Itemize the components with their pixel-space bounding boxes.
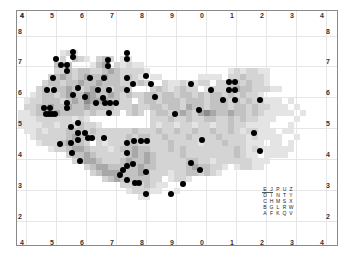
grid-label-bottom: 7 xyxy=(107,239,117,247)
record-dot xyxy=(64,105,70,111)
record-dot xyxy=(50,75,56,81)
record-dot xyxy=(93,100,99,106)
record-dot xyxy=(77,158,83,164)
grid-label-left: 2 xyxy=(15,213,25,221)
record-dot xyxy=(107,100,113,106)
legend-letter: K xyxy=(275,210,281,216)
grid-label-bottom: 0 xyxy=(197,239,207,247)
shaded-square xyxy=(204,80,210,86)
shaded-square xyxy=(276,134,282,140)
record-dot xyxy=(106,87,112,93)
record-dot xyxy=(197,167,203,173)
shaded-square xyxy=(114,110,120,116)
record-dot xyxy=(143,73,149,79)
record-dot xyxy=(143,191,149,197)
shaded-square xyxy=(294,116,300,122)
grid-label-bottom: 4 xyxy=(317,239,327,247)
shaded-square xyxy=(264,68,270,74)
record-dot xyxy=(105,63,111,69)
record-dot xyxy=(68,140,74,146)
distribution-squares xyxy=(0,0,348,259)
grid-label-right: 4 xyxy=(323,151,333,159)
record-dot xyxy=(47,105,53,111)
shaded-square xyxy=(276,86,282,92)
record-dot xyxy=(52,111,58,117)
grid-label-top: 0 xyxy=(197,12,207,20)
legend-underline xyxy=(262,192,273,193)
grid-label-bottom: 2 xyxy=(257,239,267,247)
grid-label-top: 5 xyxy=(47,12,57,20)
grid-label-left: 6 xyxy=(15,89,25,97)
shaded-square xyxy=(216,86,222,92)
record-dot xyxy=(106,110,112,116)
record-dot xyxy=(124,177,130,183)
record-dot xyxy=(53,56,59,62)
grid-label-top: 1 xyxy=(227,12,237,20)
grid-label-top: 3 xyxy=(287,12,297,20)
grid-label-top: 4 xyxy=(317,12,327,20)
grid-label-bottom: 6 xyxy=(77,239,87,247)
record-dot xyxy=(196,107,202,113)
grid-label-left: 8 xyxy=(15,28,25,36)
grid-label-right: 5 xyxy=(323,120,333,128)
record-dot xyxy=(131,138,137,144)
shaded-square xyxy=(264,158,270,164)
grid-label-right: 2 xyxy=(323,213,333,221)
record-dot xyxy=(69,150,75,156)
record-dot xyxy=(199,137,205,143)
record-dot xyxy=(257,148,263,154)
record-dot xyxy=(64,68,70,74)
shaded-square xyxy=(156,188,162,194)
shaded-square xyxy=(162,182,168,188)
grid-label-right: 6 xyxy=(323,89,333,97)
shaded-square xyxy=(138,110,144,116)
tetrad-legend: EJPUZDINTYCHMSXBGLRWAFKQV xyxy=(262,186,294,216)
record-dot xyxy=(152,94,158,100)
record-dot xyxy=(113,100,119,106)
shaded-square xyxy=(282,152,288,158)
shaded-square xyxy=(126,68,132,74)
grid-label-left: 5 xyxy=(15,120,25,128)
record-dot xyxy=(188,160,194,166)
shaded-square xyxy=(270,116,276,122)
record-dot xyxy=(148,81,154,87)
record-dot xyxy=(130,161,136,167)
record-dot xyxy=(75,85,81,91)
record-dot xyxy=(75,120,81,126)
grid-label-bottom: 3 xyxy=(287,239,297,247)
shaded-square xyxy=(216,80,222,86)
shaded-square xyxy=(294,134,300,140)
grid-label-top: 9 xyxy=(167,12,177,20)
record-dot xyxy=(82,94,88,100)
shaded-square xyxy=(300,110,306,116)
grid-label-bottom: 5 xyxy=(47,239,57,247)
record-dot xyxy=(124,140,130,146)
grid-label-right: 7 xyxy=(323,58,333,66)
record-dot xyxy=(257,97,263,103)
shaded-square xyxy=(288,140,294,146)
shaded-square xyxy=(174,188,180,194)
record-dot xyxy=(101,75,107,81)
record-dot xyxy=(117,172,123,178)
record-dot xyxy=(70,54,76,60)
shaded-square xyxy=(138,80,144,86)
legend-letter: Q xyxy=(282,210,288,216)
grid-label-top: 7 xyxy=(107,12,117,20)
grid-label-top: 2 xyxy=(257,12,267,20)
record-dot xyxy=(70,92,76,98)
record-dot xyxy=(75,137,81,143)
legend-letter: F xyxy=(269,210,275,216)
record-dot xyxy=(144,138,150,144)
grid-label-corner: 4 xyxy=(17,12,27,20)
record-dot xyxy=(232,97,238,103)
grid-label-right: 8 xyxy=(323,28,333,36)
record-dot xyxy=(68,124,74,130)
record-dot xyxy=(124,50,130,56)
record-dot xyxy=(124,150,130,156)
record-dot xyxy=(95,87,101,93)
record-dot xyxy=(101,135,107,141)
record-dot xyxy=(172,111,178,117)
record-dot xyxy=(57,141,63,147)
record-dot xyxy=(75,130,81,136)
grid-label-top: 8 xyxy=(137,12,147,20)
